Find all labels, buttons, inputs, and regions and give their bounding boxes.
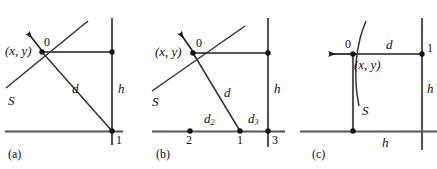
panel-b-point-xy-label: (x, y): [155, 45, 182, 58]
panel-a-origin-label: 0: [44, 36, 50, 48]
panel-c-height-bottom-label: h: [382, 136, 389, 149]
panel-b-distance-3-label: d3: [248, 112, 259, 127]
panel-a-caption: (a): [8, 148, 21, 160]
panel-b-distance-line: [193, 53, 240, 131]
panel-b-distance-2-label: d2: [204, 112, 215, 127]
panel-b-node-3: [265, 128, 270, 133]
panel-c-point-xy-label: (x, y): [354, 58, 381, 71]
panel-b-graphics: [152, 18, 285, 147]
panel-b-normal-arrow: [180, 33, 194, 53]
figure-panel-group: 0 (x, y) S d h 1 (a) 0 (x, y) S d h d2 d…: [0, 0, 437, 169]
panel-a-height-label: h: [118, 82, 125, 95]
panel-c-graphics: [300, 18, 437, 150]
panel-c-caption: (c): [312, 148, 325, 160]
panel-b-caption: (b): [156, 148, 170, 160]
panel-a-graphics: [5, 18, 123, 145]
panel-b-height-label: h: [274, 82, 281, 95]
panel-b-node-wall: [265, 50, 270, 55]
panel-c-node-origin: [350, 51, 355, 56]
panel-b-node-2-label: 2: [186, 134, 192, 146]
panel-b-distance-3-subscript: 3: [255, 118, 259, 127]
panel-b-node-1-label: 1: [237, 134, 243, 146]
panel-b-node-origin: [190, 50, 195, 55]
panel-a-point-xy-label: (x, y): [5, 44, 32, 57]
figure-vector-graphics: [0, 0, 437, 169]
panel-b-node-3-label: 3: [272, 134, 278, 146]
panel-c-node-1: [419, 51, 424, 56]
panel-a-surface-label: S: [8, 94, 15, 107]
panel-a-node-wall: [109, 49, 114, 54]
panel-c-node-1-label: 1: [427, 42, 433, 54]
panel-a-node-origin: [39, 49, 44, 54]
panel-c-node-ground: [350, 128, 355, 133]
panel-a-distance-label: d: [72, 82, 79, 95]
panel-a-node-1: [109, 128, 114, 133]
panel-c-height-right-label: h: [427, 82, 434, 95]
panel-b-distance-2-subscript: 2: [211, 118, 215, 127]
panel-a-node-1-label: 1: [116, 134, 122, 146]
panel-b-distance-label: d: [224, 86, 231, 99]
panel-c-distance-label: d: [386, 38, 393, 51]
panel-c-surface-label: S: [362, 104, 369, 117]
panel-c-origin-label: 0: [345, 38, 351, 50]
panel-b-surface-label: S: [152, 95, 159, 108]
panel-b-origin-label: 0: [196, 37, 202, 49]
